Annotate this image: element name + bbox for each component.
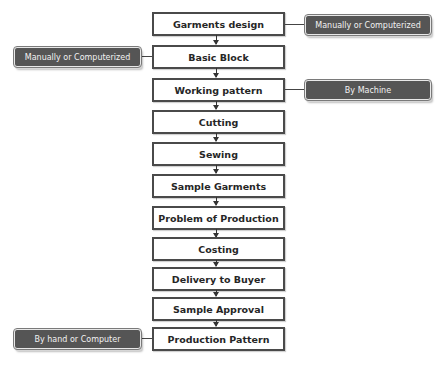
connector-line (285, 89, 305, 90)
arrow-down-icon (216, 229, 217, 237)
arrow-down-icon (216, 290, 217, 296)
arrow-down-icon (216, 68, 217, 77)
step-sewing: Sewing (152, 142, 285, 166)
step-cutting: Cutting (152, 110, 285, 134)
connector-line (285, 24, 305, 25)
arrow-down-icon (216, 133, 217, 141)
step-production-pattern: Production Pattern (152, 327, 285, 351)
arrow-down-icon (216, 320, 217, 326)
arrow-down-icon (216, 197, 217, 205)
step-costing: Costing (152, 237, 285, 261)
arrow-down-icon (216, 260, 217, 266)
step-working-pattern: Working pattern (152, 78, 285, 102)
step-problem-of-production: Problem of Production (152, 206, 285, 230)
step-sample-approval: Sample Approval (152, 297, 285, 321)
arrow-down-icon (216, 101, 217, 109)
step-sample-garments: Sample Garments (152, 174, 285, 198)
arrow-down-icon (216, 35, 217, 44)
note-basic-block: Manually or Computerized (14, 47, 141, 67)
step-basic-block: Basic Block (152, 45, 285, 69)
note-working-pattern: By Machine (305, 80, 431, 100)
step-delivery-to-buyer: Delivery to Buyer (152, 267, 285, 291)
arrow-down-icon (216, 165, 217, 173)
note-production-pattern: By hand or Computer (14, 329, 141, 349)
step-garments-design: Garments design (152, 12, 285, 36)
note-garments-design: Manually or Computerized (305, 15, 431, 35)
